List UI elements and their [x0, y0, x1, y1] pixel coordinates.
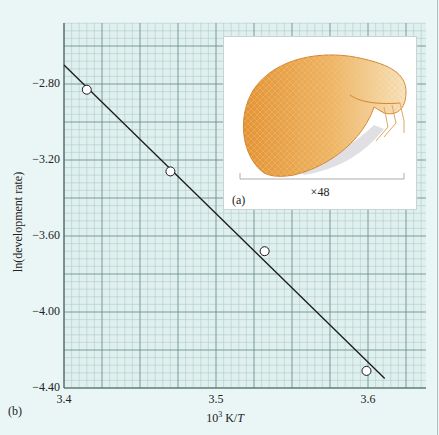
x-axis-label-variable: T [237, 411, 244, 425]
scale-bar [240, 173, 404, 179]
y-axis-label: ln(development rate) [11, 172, 26, 272]
x-tick-label: 3.5 [196, 392, 236, 407]
inset-specimen-image: ×48 (a) [223, 36, 417, 210]
y-tick-label: −4.00 [4, 304, 60, 319]
data-point [166, 167, 175, 176]
inset-scale-label: ×48 [224, 185, 416, 200]
page-edge-rule [437, 0, 438, 435]
x-axis-label-base: 10 [206, 411, 218, 425]
specimen-texture [243, 55, 406, 176]
panel-label-b: (b) [8, 404, 22, 419]
x-axis-label-unit: K/ [222, 411, 237, 425]
y-tick-label: −2.80 [4, 76, 60, 91]
figure: −2.80−3.20−3.60−4.00−4.40 3.43.53.6 ln(d… [0, 0, 439, 435]
data-point [82, 85, 91, 94]
x-axis-label: 103 K/T [206, 410, 244, 426]
data-point [260, 247, 269, 256]
data-point [362, 366, 371, 375]
x-tick-label: 3.4 [44, 392, 84, 407]
x-tick-label: 3.6 [348, 392, 388, 407]
panel-label-a: (a) [232, 193, 245, 208]
y-tick-label: −3.20 [4, 152, 60, 167]
